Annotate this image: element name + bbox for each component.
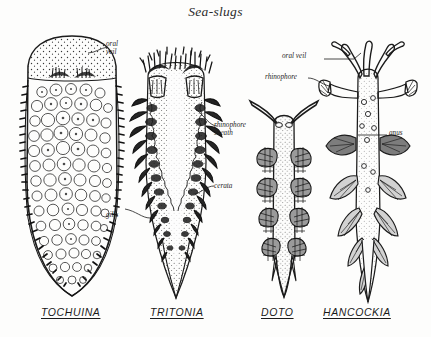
page-title: Sea-slugs — [0, 4, 431, 20]
illustration-plate: Sea-slugs — [0, 0, 431, 337]
leader-rhinophore-right — [308, 74, 330, 90]
genus-label-hancockia: HANCOCKIA — [323, 306, 391, 318]
specimen-doto — [248, 105, 320, 305]
callout-oral-veil-right: oral veil — [282, 52, 306, 60]
genus-label-tritonia: TRITONIA — [150, 306, 204, 318]
callout-anus: anus — [389, 129, 403, 137]
specimen-tritonia — [128, 42, 224, 302]
leader-rhinophore-sheath — [196, 106, 218, 130]
leader-cerata — [195, 180, 215, 196]
leader-oral-veil-left — [88, 44, 110, 56]
leader-anus — [358, 131, 388, 139]
leader-oral-veil-right — [324, 52, 362, 66]
specimen-hancockia — [318, 40, 418, 306]
specimen-tochuina — [18, 32, 126, 304]
hancockia-rhinophore-right — [378, 80, 417, 98]
callout-rhinophore-right: rhinophore — [265, 73, 297, 81]
genus-label-doto: DOTO — [261, 306, 294, 318]
genus-label-tochuina: TOCHUINA — [41, 306, 100, 318]
callout-cerata: cerata — [214, 182, 232, 190]
tochuina-gill-fringe — [25, 80, 119, 296]
callout-gills: gills — [106, 211, 118, 219]
callout-rhinophore-sheath: rhinophore sheath — [214, 121, 246, 138]
